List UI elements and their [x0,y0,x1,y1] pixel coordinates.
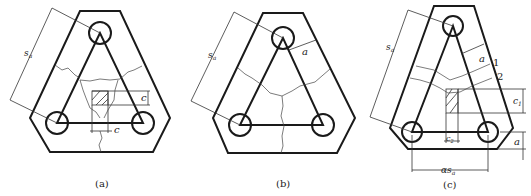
label-sa-b: sa [208,50,217,61]
label-c1: c1 [513,96,522,107]
pile-cap-diagram: sa c c (a) sa a (b) [0,0,531,196]
label-sa-c: sa [386,42,395,53]
label-c-edge-a: c [141,92,147,103]
label-bottom-a: a [514,136,520,147]
pile-cap-outline-b [213,13,355,153]
column-section-a [92,91,108,105]
caption-a: (a) [95,178,109,189]
panel-a [10,8,170,152]
label-crack-1: 1 [493,57,499,68]
panel-c [370,6,526,172]
label-sa-a: sa [24,48,33,59]
label-alpha-sa: αsa [441,165,456,176]
caption-b: (b) [276,178,290,189]
panel-b [191,12,355,153]
strut-triangle-c [412,26,488,132]
label-crack-2: 2 [497,71,503,82]
label-a-b: a [302,46,308,57]
label-c2: c2 [446,134,454,144]
strut-triangle-a [57,33,143,123]
label-c-width-a: c [114,124,120,135]
caption-c: (c) [443,179,457,190]
label-a-c: a [479,53,485,64]
